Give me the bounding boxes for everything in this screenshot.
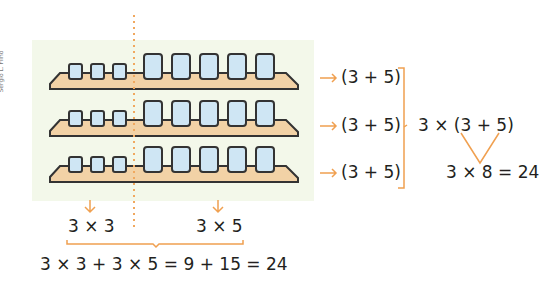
large-glass [172, 101, 190, 126]
shelves-illustration [0, 0, 559, 281]
small-glass [91, 64, 104, 79]
row-label-3: (3 + 5) [341, 162, 401, 182]
small-glass [69, 64, 82, 79]
large-glass [200, 54, 218, 79]
small-glass [91, 157, 104, 172]
small-glass [113, 111, 126, 126]
large-glass [172, 54, 190, 79]
right-product: 3 × 5 [196, 216, 243, 236]
large-glass [228, 147, 246, 172]
result-expression: 3 × 8 = 24 [446, 162, 539, 182]
bottom-brace [67, 240, 243, 247]
large-glass [144, 54, 162, 79]
total-expression: 3 × 3 + 3 × 5 = 9 + 15 = 24 [40, 254, 288, 274]
large-glass [172, 147, 190, 172]
large-glass [200, 101, 218, 126]
large-glass [256, 147, 274, 172]
large-glass [228, 101, 246, 126]
row-label-2: (3 + 5) [341, 115, 401, 135]
down-arrow-right [213, 200, 223, 212]
left-product: 3 × 3 [68, 216, 115, 236]
down-arrow-left [85, 200, 95, 212]
small-glass [69, 111, 82, 126]
small-glass [91, 111, 104, 126]
large-glass [256, 101, 274, 126]
small-glass [69, 157, 82, 172]
large-glass [144, 101, 162, 126]
v-connector [461, 133, 499, 163]
large-glass [228, 54, 246, 79]
large-glass [256, 54, 274, 79]
row-label-1: (3 + 5) [341, 67, 401, 87]
large-glass [144, 147, 162, 172]
grouped-expression: 3 × (3 + 5) [418, 115, 514, 135]
small-glass [113, 157, 126, 172]
large-glass [200, 147, 218, 172]
small-glass [113, 64, 126, 79]
